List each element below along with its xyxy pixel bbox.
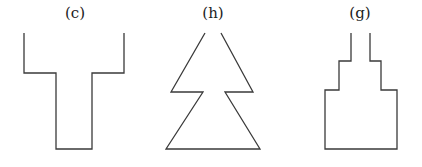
stepped-tower-outline — [325, 33, 397, 149]
t-shape-outline — [24, 33, 124, 149]
tree-shape-outline — [166, 33, 260, 149]
shapes-svg — [0, 0, 422, 167]
figure-canvas: (c) (h) (g) — [0, 0, 422, 167]
